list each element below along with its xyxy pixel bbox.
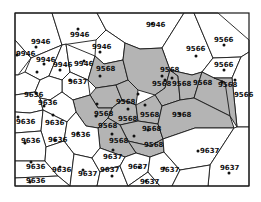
cell-label: 9637 <box>68 78 88 86</box>
site-point-icon <box>127 108 130 111</box>
cell-label: 9636 <box>26 177 46 185</box>
cell-label: 9636 <box>16 118 36 126</box>
cell-label: 9568 <box>96 65 116 73</box>
cell-label: 9566 <box>214 61 234 69</box>
cell-label: 9637 <box>128 163 148 171</box>
cell-label: 9637 <box>103 153 123 161</box>
cell-label: 9636 <box>48 136 68 144</box>
cell-label: 9568 <box>94 110 114 118</box>
cell-label: 9568 <box>160 66 180 74</box>
cell-label: 9568 <box>193 79 213 87</box>
cell-label: 9568 <box>144 141 164 149</box>
cell-label: 9946 <box>31 38 51 46</box>
cell-label: 9637 <box>160 166 180 174</box>
cell-label: 9637 <box>200 147 220 155</box>
cell-label: 9637 <box>78 170 98 178</box>
site-point-icon <box>161 75 164 78</box>
cell-label: 9568 <box>172 80 192 88</box>
cell-label: 9568 <box>142 125 162 133</box>
cell-label: 9637 <box>220 164 240 172</box>
cell-label: 9568 <box>140 111 160 119</box>
cell-label: 9636 <box>26 163 46 171</box>
cell-label: 9637 <box>100 166 120 174</box>
cell-label: 9946 <box>146 21 166 29</box>
cell-label: 9946 <box>16 50 36 58</box>
site-point-icon <box>195 55 198 58</box>
cell-label: 9566 <box>186 45 206 53</box>
cell-label: 9636 <box>52 166 72 174</box>
voronoi-cell <box>15 131 46 161</box>
cell-label: 9566 <box>214 36 234 44</box>
cell-label: 9636 <box>21 137 41 145</box>
voronoi-cell <box>136 95 162 124</box>
cell-label: 9566 <box>234 91 254 99</box>
cell-label: 9568 <box>109 137 129 145</box>
site-point-icon <box>96 103 99 106</box>
cell-label: 9637 <box>140 178 160 186</box>
cell-label: 9568 <box>118 115 138 123</box>
site-point-icon <box>99 75 102 78</box>
site-point-icon <box>133 135 136 138</box>
cell-label: 9568 <box>172 111 192 119</box>
cell-label: 9636 <box>38 99 58 107</box>
cell-label: 9946 <box>53 61 73 69</box>
cell-label: 9636 <box>71 131 91 139</box>
cell-label: 9568 <box>116 98 136 106</box>
cell-label: 9946 <box>92 43 112 51</box>
site-point-icon <box>144 104 147 107</box>
site-point-icon <box>137 93 140 96</box>
site-point-icon <box>112 149 115 152</box>
cell-label: 9946 <box>74 60 94 68</box>
site-point-icon <box>111 133 114 136</box>
cell-label: 9946 <box>70 31 90 39</box>
site-point-icon <box>52 114 55 117</box>
site-point-icon <box>111 175 114 178</box>
site-point-icon <box>36 71 39 74</box>
voronoi-diagram: 9946994699469946994699469946994696379566… <box>0 0 261 202</box>
cell-label: 9568 <box>98 122 118 130</box>
cell-label: 9636 <box>45 119 65 127</box>
cell-label: 9568 <box>152 80 172 88</box>
cell-label: 9636 <box>24 91 44 99</box>
cell-label: 9568 <box>218 81 238 89</box>
